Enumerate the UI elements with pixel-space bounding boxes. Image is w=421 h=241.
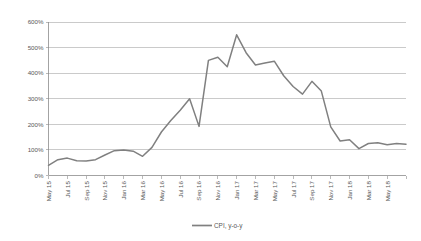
- y-axis-tick-label: 200%: [28, 121, 44, 128]
- y-axis-tick-label: 400%: [28, 69, 44, 76]
- chart-container: 0%100%200%300%400%500%600% May 15Jul 15S…: [0, 0, 421, 241]
- x-axis-tick-label: May 15: [45, 180, 52, 201]
- x-axis-tick-label: Sep 17: [308, 180, 315, 200]
- y-axis-tick-labels: 0%100%200%300%400%500%600%: [28, 18, 44, 179]
- x-axis-tick-label: Jul 16: [177, 180, 184, 197]
- gridlines-group: [46, 22, 407, 176]
- x-axis-tick-label: Jul 15: [64, 180, 71, 197]
- cpi-line-chart: 0%100%200%300%400%500%600% May 15Jul 15S…: [0, 0, 421, 241]
- x-axis-tick-label: Nov 17: [327, 180, 334, 200]
- x-axis-tick-label: Sep 16: [195, 180, 202, 200]
- x-axis-tick-label: Jan 17: [233, 180, 240, 199]
- y-axis-tick-label: 100%: [28, 146, 44, 153]
- x-axis-tick-label: May 16: [158, 180, 165, 201]
- x-axis-tick-label: May 17: [271, 180, 278, 201]
- x-axis-tick-labels: May 15Jul 15Sep 15Nov 15Jan 16Mar 16May …: [45, 180, 391, 201]
- x-axis-tick-label: May 18: [384, 180, 391, 201]
- x-axis-tick-label: Nov 16: [214, 180, 221, 200]
- series-line-cpi-yoy: [49, 35, 407, 165]
- legend-label-cpi-yoy: CPI, y-o-y: [214, 222, 243, 230]
- y-axis-tick-label: 0%: [35, 172, 44, 179]
- x-axis-tick-label: Mar 16: [139, 180, 146, 200]
- x-axis-tick-label: Jul 17: [290, 180, 297, 197]
- x-axis-tick-label: Mar 18: [365, 180, 372, 200]
- x-axis-tick-label: Jan 16: [120, 180, 127, 199]
- x-axis-tickmarks: [49, 176, 407, 179]
- x-axis-tick-label: Sep 15: [83, 180, 90, 200]
- y-axis-tick-label: 300%: [28, 95, 44, 102]
- x-axis-tick-label: Mar 17: [252, 180, 259, 200]
- y-axis-tick-label: 600%: [28, 18, 44, 25]
- y-axis-tick-label: 500%: [28, 44, 44, 51]
- x-axis-tick-label: Jan 18: [346, 180, 353, 199]
- x-axis-tick-label: Nov 15: [101, 180, 108, 200]
